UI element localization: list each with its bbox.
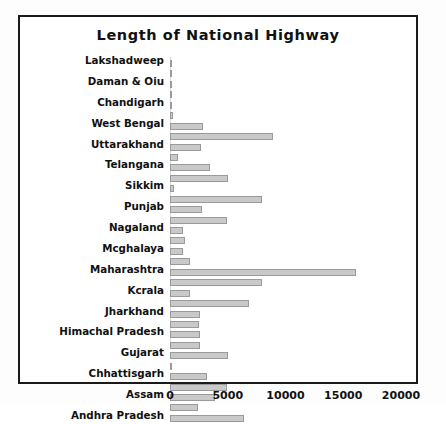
bar-row: Chhattisgarh	[20, 372, 416, 382]
bar	[170, 206, 202, 213]
category-label: Maharashtra	[20, 263, 164, 275]
bar	[170, 300, 249, 307]
plot-area: LakshadweepDaman & OiuChandigarhWest Ben…	[20, 57, 416, 347]
x-tick-label: 0	[166, 389, 174, 402]
bar-row: Sikkim	[20, 184, 416, 194]
bar-row: Himachal Pradesh	[20, 330, 416, 340]
chart-title: Length of National Highway	[20, 27, 416, 43]
x-axis-ticks: 05000100001500020000	[20, 389, 416, 409]
bar-row: Chandigarh	[20, 101, 416, 111]
category-label: Chandigarh	[20, 96, 164, 108]
bar-row: Nagaland	[20, 226, 416, 236]
bar	[170, 269, 356, 276]
category-label: Lakshadweep	[20, 54, 164, 66]
figure-frame: Length of National Highway LakshadweepDa…	[18, 15, 418, 384]
bar	[170, 363, 172, 370]
x-tick-label: 20000	[382, 389, 420, 402]
bar	[170, 175, 228, 182]
bar-row: Kcrala	[20, 289, 416, 299]
bar-row: Jharkhand	[20, 310, 416, 320]
bar	[170, 102, 172, 109]
bar	[170, 290, 190, 297]
bar	[170, 144, 201, 151]
bar	[170, 373, 207, 380]
bar	[170, 258, 190, 265]
bar	[170, 60, 172, 67]
category-label: Chhattisgarh	[20, 367, 164, 379]
bar	[170, 91, 172, 98]
category-label: Jharkhand	[20, 305, 164, 317]
bar	[170, 227, 183, 234]
bar	[170, 352, 228, 359]
bar	[170, 311, 200, 318]
bar	[170, 196, 262, 203]
bar	[170, 342, 200, 349]
category-label: Mcghalaya	[20, 242, 164, 254]
bar	[170, 185, 174, 192]
bar-row: West Bengal	[20, 122, 416, 132]
bar-row: Mcghalaya	[20, 247, 416, 257]
bar	[170, 154, 178, 161]
category-label: Uttarakhand	[20, 138, 164, 150]
category-label: Sikkim	[20, 179, 164, 191]
category-label: Himachal Pradesh	[20, 325, 164, 337]
category-label: Andhra Pradesh	[20, 409, 164, 421]
bar	[170, 415, 244, 422]
bar	[170, 123, 203, 130]
bar	[170, 279, 262, 286]
x-tick-label: 15000	[324, 389, 362, 402]
category-label: Punjab	[20, 200, 164, 212]
bar	[170, 248, 183, 255]
x-tick-label: 10000	[266, 389, 304, 402]
bar-row: Uttarakhand	[20, 143, 416, 153]
bar-row: Telangana	[20, 163, 416, 173]
bar-row: Lakshadweep	[20, 59, 416, 69]
bar	[170, 133, 273, 140]
category-label: Gujarat	[20, 346, 164, 358]
bar-row: Andhra Pradesh	[20, 414, 416, 424]
category-label: West Bengal	[20, 117, 164, 129]
bar-rows: LakshadweepDaman & OiuChandigarhWest Ben…	[20, 59, 416, 424]
bar	[170, 217, 227, 224]
bar-row: Maharashtra	[20, 268, 416, 278]
bar-row: Punjab	[20, 205, 416, 215]
bar	[170, 321, 199, 328]
category-label: Kcrala	[20, 284, 164, 296]
bar	[170, 112, 173, 119]
bar-row: Gujarat	[20, 351, 416, 361]
bar	[170, 237, 185, 244]
x-tick-label: 5000	[212, 389, 243, 402]
bar	[170, 81, 172, 88]
bar	[170, 164, 210, 171]
bar	[170, 70, 172, 77]
category-label: Telangana	[20, 158, 164, 170]
category-label: Daman & Oiu	[20, 75, 164, 87]
bar	[170, 331, 200, 338]
category-label: Nagaland	[20, 221, 164, 233]
bar-row: Daman & Oiu	[20, 80, 416, 90]
